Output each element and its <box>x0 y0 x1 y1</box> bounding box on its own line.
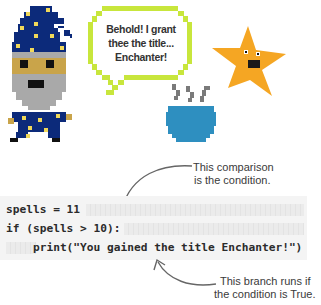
speech-line: Enchanter! <box>97 50 185 64</box>
code-line-3: print("You gained the title Enchanter!") <box>6 240 313 256</box>
annotation-branch: This branch runs if the condition is Tru… <box>214 275 316 301</box>
speech-line: thee the title... <box>97 36 185 50</box>
annotation-condition: This comparison is the condition. <box>193 161 274 187</box>
code-line-1: spells = 11 <box>6 202 313 218</box>
annotation-line: is the condition. <box>193 174 274 187</box>
annotation-line: This comparison <box>193 161 274 174</box>
annotation-line: the condition is True. <box>214 288 316 301</box>
cauldron-icon <box>164 82 224 148</box>
speech-bubble-text: Behold! I grant thee the title... Enchan… <box>97 22 185 64</box>
wizard-icon <box>8 4 72 144</box>
annotation-line: This branch runs if <box>214 275 316 288</box>
code-block: spells = 11 if (spells > 10): print("You… <box>0 196 307 260</box>
speech-line: Behold! I grant <box>97 22 185 36</box>
code-line-2: if (spells > 10): <box>6 221 313 237</box>
arrow-icon <box>150 258 220 294</box>
